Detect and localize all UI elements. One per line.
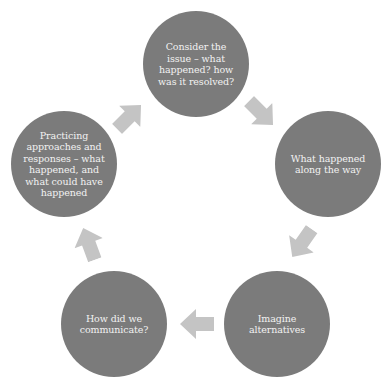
- arrow-left-icon: [180, 309, 214, 339]
- node-along-the-way: What happened along the way: [275, 111, 381, 217]
- node-imagine-alternatives: Imagine alternatives: [224, 271, 330, 377]
- node-label: Imagine alternatives: [224, 313, 330, 336]
- arrow-up-icon: [69, 223, 109, 265]
- node-communicate: How did we communicate?: [61, 271, 167, 377]
- node-consider-issue: Consider the issue – what happened? how …: [143, 11, 249, 117]
- node-label: Practicing approaches and responses – wh…: [11, 130, 117, 199]
- arrow-right-down-icon: [238, 90, 283, 135]
- arrow-down-left-icon: [280, 220, 324, 265]
- node-label: How did we communicate?: [61, 313, 167, 336]
- node-practicing: Practicing approaches and responses – wh…: [11, 111, 117, 217]
- cycle-diagram: Consider the issue – what happened? how …: [0, 0, 391, 385]
- node-label: What happened along the way: [275, 153, 381, 176]
- node-label: Consider the issue – what happened? how …: [143, 41, 249, 87]
